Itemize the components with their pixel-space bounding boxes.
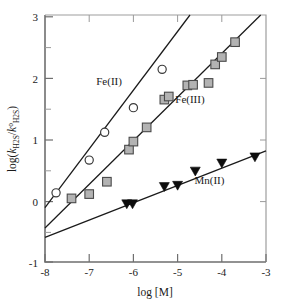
data-point bbox=[250, 153, 260, 162]
fit-lines-group bbox=[45, 15, 266, 237]
x-tick-label: -8 bbox=[40, 266, 50, 278]
data-point bbox=[103, 177, 112, 186]
y-tick-label: 1 bbox=[33, 134, 39, 146]
x-tick-label: -3 bbox=[261, 266, 271, 278]
series-label-mn2: Mn(II) bbox=[194, 174, 224, 187]
figure-container: -8 -7 -6 -5 -4 -3 3 2 1 0 -1 log [M] log… bbox=[0, 0, 284, 305]
y-tick-label: -1 bbox=[29, 257, 38, 269]
y-axis-ticks bbox=[45, 17, 266, 262]
y-title-suffix: ) bbox=[6, 106, 19, 110]
x-tick-label: -7 bbox=[85, 266, 95, 278]
svg-text:log(kH2S/koH2S): log(kH2S/koH2S) bbox=[6, 106, 21, 172]
data-point bbox=[189, 80, 198, 89]
y-tick-label: 2 bbox=[33, 73, 39, 85]
data-point bbox=[67, 194, 76, 203]
series-label-fe2: Fe(II) bbox=[96, 75, 122, 88]
data-point bbox=[159, 183, 169, 192]
y-tick-labels: 3 2 1 0 -1 bbox=[29, 11, 39, 269]
y-title-prefix: log( bbox=[6, 153, 19, 172]
x-tick-label: -4 bbox=[217, 266, 227, 278]
data-point bbox=[85, 156, 93, 164]
x-tick-label: -5 bbox=[173, 266, 183, 278]
series-annotations: Fe(II) Fe(III) Mn(II) bbox=[96, 75, 224, 187]
x-axis-title: log [M] bbox=[137, 286, 172, 299]
data-point bbox=[204, 79, 213, 88]
fit-line-feiii bbox=[45, 15, 261, 228]
data-point bbox=[101, 128, 109, 136]
data-point bbox=[129, 137, 138, 146]
data-point bbox=[218, 53, 227, 62]
fit-line-feii bbox=[45, 15, 190, 208]
y-tick-label: 0 bbox=[33, 196, 39, 208]
data-markers-group bbox=[52, 38, 260, 209]
data-point bbox=[142, 123, 151, 132]
data-point bbox=[173, 181, 183, 190]
data-point bbox=[125, 145, 134, 154]
x-tick-label: -6 bbox=[129, 266, 139, 278]
series-label-fe3: Fe(III) bbox=[175, 93, 205, 106]
x-tick-labels: -8 -7 -6 -5 -4 -3 bbox=[40, 266, 271, 278]
data-point bbox=[129, 104, 137, 112]
y-axis-title: log(kH2S/koH2S) bbox=[6, 106, 21, 172]
data-point bbox=[52, 189, 60, 197]
y-tick-label: 3 bbox=[33, 11, 39, 23]
data-point bbox=[85, 190, 94, 199]
data-point bbox=[164, 92, 173, 101]
scatter-plot: -8 -7 -6 -5 -4 -3 3 2 1 0 -1 log [M] log… bbox=[0, 0, 284, 305]
data-point bbox=[231, 38, 240, 47]
data-point bbox=[158, 65, 166, 73]
